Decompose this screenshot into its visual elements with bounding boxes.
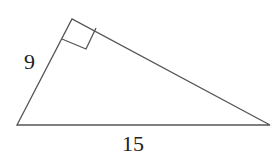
- left-leg-label: 9: [24, 51, 35, 73]
- triangle: [17, 19, 270, 125]
- right-angle-marker: [62, 28, 96, 49]
- base-label: 15: [122, 133, 144, 155]
